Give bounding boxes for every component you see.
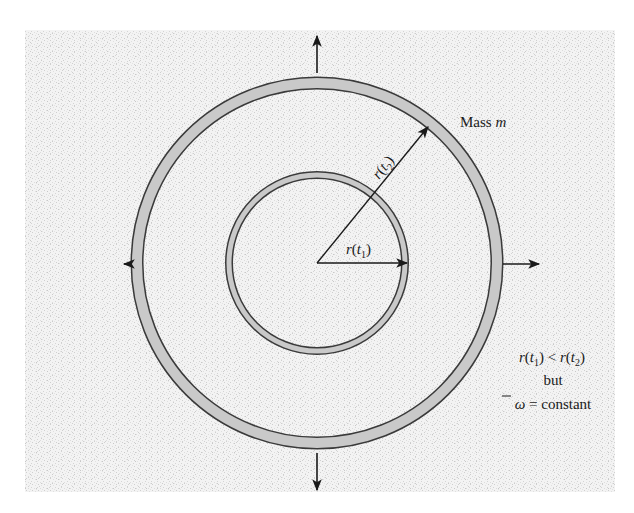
rotating-ring-diagram: Mass m r(t2) r(t1) r(t1) < r(t2) but ω =… xyxy=(0,0,634,513)
mass-label: Mass m xyxy=(460,114,506,130)
condition-line-2: but xyxy=(543,372,563,388)
svg-text:ω = constant: ω = constant xyxy=(515,396,592,412)
condition-line-3: ω = constant xyxy=(502,396,592,412)
speckled-background xyxy=(25,30,615,492)
